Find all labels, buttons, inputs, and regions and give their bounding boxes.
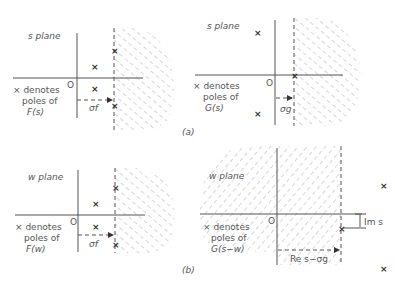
legend-line-3: G(s) [205, 103, 224, 113]
legend-line-3: F(w) [26, 244, 46, 254]
sigma-label: σf [89, 239, 100, 249]
im-s-label: Im s [364, 217, 383, 227]
legend-line-2: poles of [203, 92, 239, 102]
panel-b-right: w plane O × denotes poles of G(s−w) Im s… [200, 146, 388, 274]
pole-marker: × [111, 101, 119, 111]
origin-label: O [266, 78, 273, 88]
legend-line-1: × denotes [203, 222, 250, 232]
convergence-region-shading [115, 168, 175, 253]
convolution-regions-diagram: s plane O × denotes poles of F(s) σf × ×… [0, 0, 395, 286]
legend-line-3: G(s−w) [211, 244, 245, 254]
convergence-region-shading [114, 28, 174, 130]
legend-line-1: × denotes [13, 85, 60, 95]
legend-line-1: × denotes [193, 81, 240, 91]
pole-marker: × [380, 264, 388, 274]
pole-marker: × [92, 222, 100, 232]
plane-label: s plane [28, 31, 61, 41]
convergence-region-shading [294, 18, 360, 126]
pole-marker: × [380, 181, 388, 191]
legend-line-1: × denotes [15, 222, 62, 232]
pole-marker: × [92, 199, 100, 209]
sigma-label: σf [89, 103, 100, 113]
origin-label: O [70, 217, 77, 227]
pole-marker: × [112, 183, 120, 193]
pole-marker: × [254, 109, 262, 119]
panel-b-left: w plane O × denotes poles of F(w) σf × ×… [15, 168, 175, 254]
pole-marker: × [291, 71, 299, 81]
pole-marker: × [91, 62, 99, 72]
legend-line-2: poles of [22, 96, 58, 106]
legend-line-2: poles of [211, 233, 247, 243]
panel-a-left: s plane O × denotes poles of F(s) σf × ×… [13, 28, 174, 130]
pole-marker: × [91, 84, 99, 94]
re-s-label: Re s−σg [290, 254, 328, 264]
plane-label: w plane [209, 171, 245, 181]
panel-a-caption: (a) [182, 127, 195, 137]
sigma-label: σg [280, 104, 292, 114]
pole-marker: × [254, 28, 262, 38]
plane-label: s plane [207, 21, 240, 31]
legend-line-3: F(s) [27, 107, 44, 117]
pole-marker: × [111, 46, 119, 56]
origin-label: O [268, 216, 275, 226]
panel-b-caption: (b) [182, 265, 195, 275]
legend-line-2: poles of [24, 233, 60, 243]
pole-marker: × [338, 224, 346, 234]
panel-a-right: s plane O × denotes poles of G(s) σg × ×… [193, 18, 360, 126]
plane-label: w plane [28, 172, 64, 182]
origin-label: O [67, 80, 74, 90]
pole-marker: × [112, 240, 120, 250]
